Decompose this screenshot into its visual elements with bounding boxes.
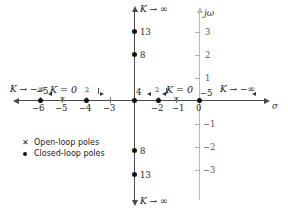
real-axis-right-arrowhead: [264, 98, 270, 104]
imaginary-axis-label: jω: [204, 8, 214, 18]
imag-tick-label-1: 1: [205, 73, 210, 83]
real-axis-label: σ: [272, 101, 278, 111]
real-tick-label-minus-2: −2: [151, 103, 164, 113]
real-tick-label-minus-3: −3: [103, 103, 116, 113]
imag-tick-minus-1: [195, 124, 200, 125]
imag-tick-minus-3: [195, 170, 200, 171]
legend-open-loop-label: Open-loop poles: [34, 138, 99, 147]
closed-loop-pole-minus-6: [38, 98, 43, 103]
open-loop-pole-x-minus-1: ✕: [173, 96, 180, 104]
k-equals-zero-label-right: K = 0: [166, 84, 193, 95]
gain-label-pole-imag-plus-2: 8: [140, 50, 145, 60]
imag-tick-label-3: 3: [205, 27, 210, 37]
imag-tick-label-minus-2: −2: [203, 142, 216, 152]
real-axis-line: [18, 100, 266, 101]
gain-label-pole-imag-minus-2: 8: [140, 146, 145, 156]
real-axis-left-arrowhead: [13, 98, 19, 104]
real-tick-label-minus-6: −6: [32, 103, 45, 113]
gain-label-pole-minus-3: 4: [136, 87, 141, 97]
imag-tick-2: [195, 55, 200, 56]
gain-label-pole-0: −5: [200, 88, 213, 98]
closed-loop-pole-0: [197, 98, 202, 103]
locus-direction-arrow-mid: [147, 92, 151, 96]
closed-loop-pole-imag-plus-2: [132, 52, 137, 57]
k-label-bottom-infinity: K → ∞: [140, 196, 167, 206]
imag-tick-1: [195, 78, 200, 79]
gain-label-pole-minus-4: 2: [85, 86, 89, 94]
k-label-right-infinity: K → −∞: [220, 84, 255, 94]
imag-tick-label-minus-1: −1: [203, 119, 216, 129]
imag-tick-minus-2: [195, 147, 200, 148]
imag-tick-label-2: 2: [205, 50, 210, 60]
real-tick-label-minus-1: −1: [172, 103, 185, 113]
legend-closed-loop-label: Closed-loop poles: [34, 149, 105, 158]
open-loop-pole-x-minus-5: ✕: [59, 96, 66, 104]
real-tick-label-minus-4: −4: [79, 103, 92, 113]
closed-loop-pole-imag-minus-3: [132, 172, 137, 177]
closed-loop-pole-minus-2: [156, 98, 161, 103]
legend-open-loop-marker: ✕: [22, 139, 29, 147]
gain-label-pole-minus-2: 2: [155, 86, 159, 94]
closed-loop-pole-imag-minus-2: [132, 148, 137, 153]
vertical-branch-down-arrowhead: [132, 200, 138, 206]
imag-tick-label-minus-3: −3: [203, 165, 216, 175]
closed-loop-pole-minus-4: [84, 98, 89, 103]
k-equals-zero-label-left: K = 0: [50, 84, 77, 95]
closed-loop-pole-imag-plus-3: [132, 29, 137, 34]
locus-direction-arrow-left-inward: [100, 92, 104, 96]
real-tick-label-minus-5: −5: [55, 103, 68, 113]
real-tick-label-0: 0: [196, 103, 201, 113]
root-locus-figure: jω 3 2 1 −1 −2 −3 σ −6 −5 −4 −3 −2 −1 0 …: [0, 0, 288, 216]
k-label-top-infinity: K → ∞: [140, 4, 167, 14]
gain-label-pole-imag-plus-3: 13: [140, 27, 151, 37]
legend-closed-loop-marker: [23, 152, 27, 156]
imaginary-axis-arrowhead: [197, 7, 203, 13]
k-label-left-infinity: K → −∞: [10, 84, 45, 94]
locus-direction-tick-left: [98, 88, 99, 94]
vertical-branch-up-arrowhead: [132, 6, 138, 12]
closed-loop-pole-minus-3: [132, 98, 137, 103]
imag-tick-3: [195, 32, 200, 33]
gain-label-pole-imag-minus-3: 13: [140, 170, 151, 180]
